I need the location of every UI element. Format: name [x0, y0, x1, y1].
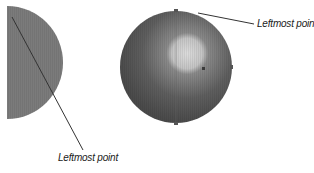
right-leftmost-point-label: Leftmost point: [257, 18, 314, 29]
sphere-shape: [120, 11, 232, 123]
handle-top: [174, 9, 178, 12]
focal-point-marker: [202, 67, 205, 70]
handle-right: [230, 65, 233, 69]
handle-bottom: [174, 122, 178, 125]
left-leftmost-point-label: Leftmost point: [58, 152, 118, 163]
